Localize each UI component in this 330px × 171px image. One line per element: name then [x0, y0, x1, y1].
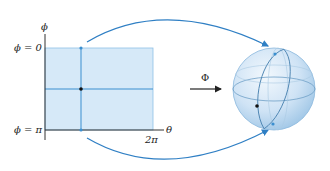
bottom-mapping-arc	[87, 130, 268, 159]
point-bottom	[79, 128, 82, 131]
phi-zero-label: ϕ = 0	[14, 43, 42, 53]
parametrization-diagram	[0, 0, 330, 171]
top-mapping-arc	[87, 20, 268, 46]
parameter-domain-rectangle	[45, 48, 153, 130]
sphere	[233, 46, 315, 132]
map-label: Φ	[201, 73, 209, 83]
theta-axis-label: θ	[166, 125, 172, 135]
phi-axis-label: ϕ	[41, 22, 48, 32]
point-center	[79, 87, 83, 91]
phi-pi-label: ϕ = π	[14, 125, 42, 135]
point-top	[79, 46, 82, 49]
theta-max-label: 2π	[145, 135, 158, 145]
